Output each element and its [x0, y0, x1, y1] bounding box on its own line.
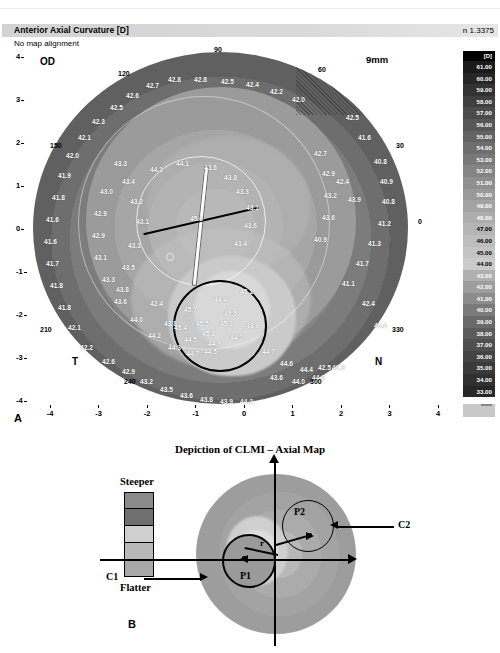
curvature-value: 44.1: [150, 166, 163, 173]
curvature-value: 42.7: [146, 82, 159, 89]
curvature-value: 42.6: [126, 92, 139, 99]
diameter-label: 9mm: [366, 54, 388, 65]
curvature-value: 44.5: [204, 348, 217, 355]
curvature-value: 43.1: [94, 254, 107, 261]
curvature-value: 42.8: [194, 76, 207, 83]
nasal-label: N: [375, 356, 382, 367]
x-tick: 0: [237, 405, 251, 418]
curvature-value: 43.6: [180, 392, 193, 399]
curvature-value: 42.8: [168, 76, 181, 83]
apex-value: 45.6: [190, 215, 203, 222]
color-scale-row: 44.00: [463, 258, 495, 270]
clmi-point-p1: [242, 556, 246, 560]
curvature-value: 41.6: [358, 134, 371, 141]
curvature-value: 43.8: [116, 286, 129, 293]
curvature-value: 41.1: [342, 280, 355, 287]
panel-a-label: A: [14, 412, 22, 424]
y-tick: 2: [16, 138, 24, 147]
panel-b-label: B: [128, 618, 136, 630]
curvature-value: 42.0: [292, 96, 305, 103]
curvature-value: 41.9: [58, 172, 71, 179]
legend-steeper-label: Steeper: [120, 476, 154, 487]
curvature-value: 42.9: [122, 368, 135, 375]
meridian-label: 300: [310, 378, 322, 385]
curvature-value: 44.4: [300, 366, 313, 373]
clmi-diagram: P1 P2 r C1 C2: [196, 474, 356, 634]
color-scale-row: 51.00: [463, 177, 495, 189]
curvature-value: 41.7: [46, 260, 59, 267]
color-scale-row: 39.00: [463, 316, 495, 328]
curvature-value: 43.8: [200, 396, 213, 403]
curvature-value: 42.2: [80, 344, 93, 351]
curvature-value: 45.3: [220, 320, 233, 327]
curvature-value: 45.5: [196, 320, 209, 327]
curvature-value: 42.3: [92, 118, 105, 125]
color-scale-row: 60.00: [463, 73, 495, 85]
legend-swatch: [124, 543, 154, 560]
curvature-value: 42.2: [270, 88, 283, 95]
curvature-value: 45.5: [224, 310, 237, 317]
curvature-value: 42.4: [336, 178, 349, 185]
curvature-value: 43.1: [246, 204, 259, 211]
curvature-value: 45.7: [184, 306, 197, 313]
curvature-value: 43.3: [114, 160, 127, 167]
color-scale-row: 49.00: [463, 200, 495, 212]
meridian-label: 240: [124, 378, 136, 385]
curvature-value: 43.2: [324, 192, 337, 199]
curvature-value: 42.4: [150, 300, 163, 307]
curvature-value: 45.4: [174, 324, 187, 331]
curvature-value: 43.6: [270, 374, 283, 381]
pupil-marker: [166, 253, 174, 261]
curvature-value: 43.1: [136, 218, 149, 225]
curvature-value: 43.9: [348, 196, 361, 203]
x-tick: -1: [189, 405, 203, 418]
color-scale-row: 50.00: [463, 189, 495, 201]
meridian-label: 90: [214, 46, 222, 53]
clmi-x-axis-arrow: [348, 554, 357, 564]
meridian-label: 330: [392, 326, 404, 333]
curvature-value: 43.6: [322, 214, 335, 221]
curvature-value: 41.6: [44, 238, 57, 245]
curvature-value: 43.5: [122, 264, 135, 271]
curvature-value: 40.8: [382, 198, 395, 205]
curvature-value: 41.8: [58, 304, 71, 311]
curvature-value: 41.8: [50, 282, 63, 289]
curvature-value: 41.7: [356, 260, 369, 267]
map-noise-region: [296, 59, 379, 115]
x-tick: 1: [286, 405, 300, 418]
curvature-value: 42.1: [68, 324, 81, 331]
y-tick: -4: [16, 396, 27, 405]
curvature-value: 40.9: [380, 178, 393, 185]
clmi-label-radius: r: [260, 538, 264, 548]
meridian-label: 210: [40, 326, 52, 333]
curvature-value: 43.4: [122, 178, 135, 185]
curvature-value: 43.2: [140, 378, 153, 385]
x-tick: -3: [92, 405, 106, 418]
color-scale-row: 35.00: [463, 362, 495, 374]
curvature-value: 41.2: [378, 220, 391, 227]
curvature-value: 41.3: [368, 240, 381, 247]
curvature-value: 42.9: [92, 232, 105, 239]
curvature-value: 43.3: [102, 276, 115, 283]
x-tick: -4: [43, 405, 57, 418]
refractive-index-value: n 1.3375: [463, 24, 494, 37]
legend-swatches: [124, 492, 154, 577]
color-scale-row: 61.00: [463, 61, 495, 73]
clmi-title: Depiction of CLMI – Axial Map: [0, 443, 500, 455]
curvature-value: 43.6: [244, 222, 257, 229]
color-scale-row: 45.00: [463, 247, 495, 259]
curvature-value: 43.0: [100, 188, 113, 195]
clmi-pointer-c1-arrow: [200, 573, 208, 581]
curvature-value: 40.9: [314, 236, 327, 243]
color-scale-row: 34.00: [463, 374, 495, 386]
curvature-value: 44.9: [208, 340, 221, 347]
curvature-value: 42.0: [66, 152, 79, 159]
color-scale-bar[interactable]: [D] 61.0060.0059.0058.0057.0056.0055.005…: [463, 51, 495, 417]
corneal-map[interactable]: 45.6 42.842.842.542.442.242.042.742.642.…: [18, 48, 448, 408]
meridian-label: 120: [118, 70, 130, 77]
curvature-value: 44.5: [184, 336, 197, 343]
eye-label: OD: [40, 56, 55, 67]
y-tick: 4: [16, 52, 24, 61]
curvature-value: 45.8: [202, 330, 215, 337]
curvature-value: 43.5: [160, 386, 173, 393]
